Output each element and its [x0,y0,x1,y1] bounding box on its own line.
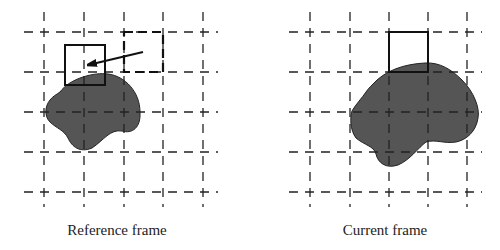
co-located-block [124,32,163,72]
current-frame-panel [289,12,482,207]
motion-estimation-diagram [0,0,500,250]
current-frame-caption: Current frame [285,222,485,239]
current-object-blob [351,63,479,166]
reference-frame-panel [24,12,218,207]
motion-vector-arrow-icon [88,52,143,65]
reference-frame-caption: Reference frame [17,222,217,239]
